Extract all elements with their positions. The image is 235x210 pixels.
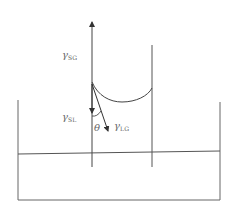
gamma-sg-subscript: SG: [68, 54, 77, 61]
theta-angle-arc: [92, 111, 101, 116]
gamma-sl-subscript: SL: [68, 116, 77, 123]
gamma-lg-subscript: LG: [120, 125, 129, 132]
gamma-lg-label: γLG: [114, 121, 129, 134]
liquid-surface-line: [18, 151, 220, 154]
capillary-contact-angle-diagram: [0, 0, 235, 210]
gamma-sl-label: γSL: [62, 112, 76, 125]
theta-label: θ: [94, 123, 100, 133]
container: [18, 100, 220, 200]
meniscus-curve: [92, 82, 152, 102]
gamma-sg-label: γSG: [62, 50, 77, 63]
